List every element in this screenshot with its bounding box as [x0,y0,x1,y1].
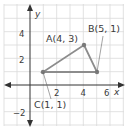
label-a: A(4, 3) [46,33,78,44]
x-tick-2: 2 [54,88,59,98]
label-b: B(5, 1) [88,23,120,34]
y-tick-2: 2 [19,55,24,65]
y-axis-down-arrow-icon [27,120,33,127]
x-tick-4: 4 [81,88,86,98]
y-axis-label: y [34,9,41,19]
leader-b [97,36,103,72]
x-tick-6: 6 [104,88,109,98]
coordinate-plane: y x 2 4 6 4 2 −2 A(4, 3) B(5, 1) C(1, 1) [0,0,131,130]
y-tick-neg2: −2 [13,108,26,118]
label-c: C(1, 1) [34,99,66,110]
point-a [82,43,86,47]
y-tick-4: 4 [19,29,24,39]
x-axis-label: x [113,87,120,97]
x-axis-left-arrow-icon [4,82,11,88]
